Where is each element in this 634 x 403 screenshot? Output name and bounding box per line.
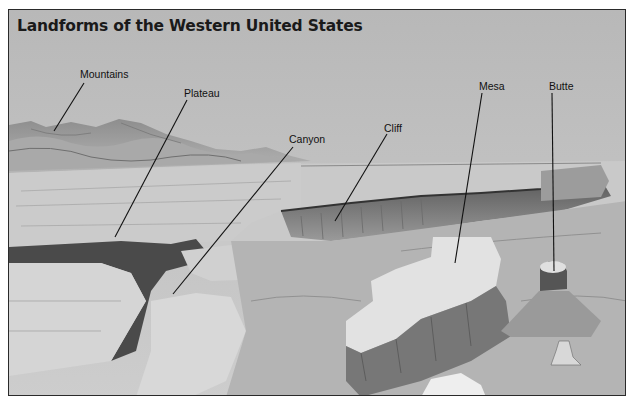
label-cliff: Cliff: [384, 122, 402, 134]
label-mesa: Mesa: [479, 80, 505, 92]
label-butte: Butte: [549, 80, 574, 92]
diagram-title: Landforms of the Western United States: [17, 17, 363, 35]
far-escarpment: [541, 165, 609, 201]
label-mountains: Mountains: [80, 68, 128, 80]
label-plateau: Plateau: [184, 87, 220, 99]
label-canyon: Canyon: [289, 133, 325, 145]
